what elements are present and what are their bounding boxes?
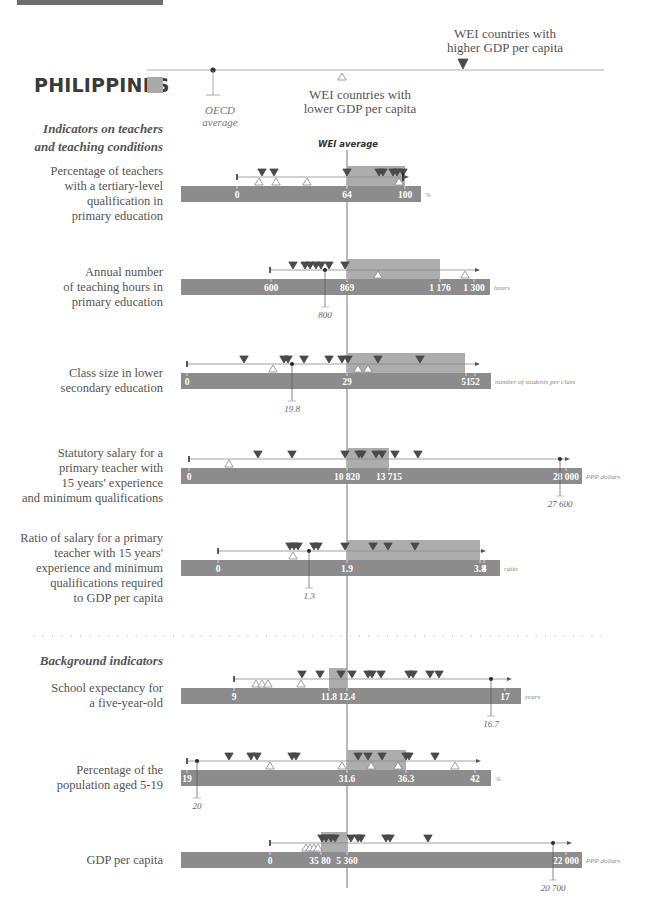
tick-label: 28 000 [553, 472, 579, 482]
tick-label: 869 [340, 283, 355, 293]
higher-gdp-marker-icon [391, 451, 399, 458]
tick-label: 0 [187, 472, 192, 482]
tick-label: 42 [470, 774, 480, 784]
separator-dot [517, 635, 518, 636]
separator-dot [145, 635, 146, 636]
chart-canvas: 064100%6008691 1761 300hours8000295152nu… [0, 0, 658, 917]
separator-dot [424, 635, 425, 636]
separator-dot [61, 635, 62, 636]
unit-label: hours [494, 284, 510, 292]
separator-dot [433, 635, 434, 636]
tick-label: 0 [268, 856, 273, 866]
tick-label: 4 [482, 564, 487, 574]
lower-gdp-marker-icon [269, 365, 277, 372]
higher-gdp-marker-icon [300, 356, 308, 363]
separator-dot [99, 635, 100, 636]
unit-label: number of students per class [495, 378, 575, 386]
separator-dot [340, 635, 341, 636]
lower-gdp-marker-icon [338, 762, 346, 769]
separator-dot [359, 635, 360, 636]
tick-label: 9 [232, 692, 237, 702]
separator-dot [443, 635, 444, 636]
oecd-value-label: 16.7 [483, 719, 499, 729]
separator-dot [210, 635, 211, 636]
higher-gdp-marker-icon [270, 169, 278, 176]
scale-arrow-icon [481, 549, 486, 553]
separator-dot [108, 635, 109, 636]
separator-dot [164, 635, 165, 636]
higher-gdp-marker-icon [424, 835, 432, 842]
unit-label: PPP dollars [585, 857, 621, 865]
higher-gdp-marker-icon [325, 356, 333, 363]
higher-gdp-marker-icon [316, 671, 324, 678]
separator-dot [536, 635, 537, 636]
lower-gdp-marker-icon [264, 680, 272, 687]
tick-label: 1 176 [429, 283, 451, 293]
lower-gdp-marker-icon [225, 460, 233, 467]
separator-dot [219, 635, 220, 636]
separator-dot [508, 635, 509, 636]
tick-label: 31.6 [339, 774, 356, 784]
higher-gdp-marker-icon [288, 451, 296, 458]
unit-label: % [425, 191, 431, 199]
separator-dot [154, 635, 155, 636]
lower-gdp-marker-icon [451, 762, 459, 769]
higher-gdp-marker-icon [325, 262, 333, 269]
separator-dot [322, 635, 323, 636]
separator-dot [350, 635, 351, 636]
tick-label: 36.3 [398, 774, 415, 784]
tick-label: 1 300 [463, 283, 485, 293]
tick-label: 12.4 [339, 692, 356, 702]
separator-dot [266, 635, 267, 636]
higher-gdp-marker-icon [414, 451, 422, 458]
scale-arrow-icon [404, 175, 409, 179]
separator-dot [554, 635, 555, 636]
oecd-value-label: 19.8 [284, 404, 300, 414]
scale-arrow-icon [475, 268, 480, 272]
separator-dot [33, 635, 34, 636]
higher-gdp-marker-icon [225, 753, 233, 760]
scale-arrow-icon [476, 759, 481, 763]
separator-dot [182, 635, 183, 636]
separator-dot [452, 635, 453, 636]
separator-dot [312, 635, 313, 636]
tick-label: 35 80 [309, 856, 331, 866]
separator-dot [405, 635, 406, 636]
scale-bar-gdp [181, 852, 582, 868]
separator-dot [71, 635, 72, 636]
tick-label: 22 000 [553, 856, 579, 866]
separator-dot [396, 635, 397, 636]
separator-dot [117, 635, 118, 636]
separator-dot [368, 635, 369, 636]
higher-gdp-marker-icon [258, 169, 266, 176]
separator-dot [294, 635, 295, 636]
lower-gdp-marker-icon [461, 271, 469, 278]
tick-label: 17 [500, 692, 510, 702]
separator-dot [257, 635, 258, 636]
separator-dot [582, 635, 583, 636]
separator-dot [247, 635, 248, 636]
tick-label: 64 [342, 190, 352, 200]
tick-label: 29 [342, 377, 352, 387]
higher-gdp-marker-icon [435, 671, 443, 678]
lower-gdp-marker-icon [255, 178, 263, 185]
separator-dot [415, 635, 416, 636]
separator-dot [126, 635, 127, 636]
separator-dot [564, 635, 565, 636]
tick-label: 100 [398, 190, 413, 200]
separator-dot [89, 635, 90, 636]
tick-label: 1.9 [341, 564, 353, 574]
separator-dot [387, 635, 388, 636]
separator-dot [136, 635, 137, 636]
tick-label: 5 360 [336, 856, 358, 866]
separator-dot [331, 635, 332, 636]
separator-dot [461, 635, 462, 636]
lower-gdp-marker-icon [297, 680, 305, 687]
unit-label: years [524, 693, 540, 701]
higher-gdp-marker-icon [254, 451, 262, 458]
unit-label: ratio [504, 565, 518, 573]
lower-gdp-marker-icon [303, 178, 311, 185]
lower-gdp-marker-icon [289, 552, 297, 559]
tick-label: 13 715 [376, 472, 402, 482]
higher-gdp-marker-icon [298, 671, 306, 678]
